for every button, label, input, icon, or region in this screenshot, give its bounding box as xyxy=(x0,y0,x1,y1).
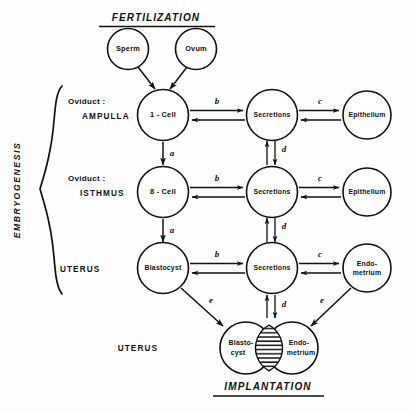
embryogenesis-brace-group: EMBRYOGENESIS xyxy=(12,86,62,294)
row-ampulla-label-line2: AMPULLA xyxy=(82,112,130,121)
implantation-title: IMPLANTATION xyxy=(224,381,311,392)
arrow-label-isthmus-b: b xyxy=(215,173,220,183)
node-isthmus-secretions-label: Secretions xyxy=(253,188,290,195)
node-uterus-endometrium-label-line2: metrium xyxy=(353,269,382,276)
implantation-endometrium-label-line2: metrium xyxy=(287,349,316,356)
sperm-label: Sperm xyxy=(116,44,140,53)
implantation-blastocyst-label-line1: Blasto- xyxy=(229,339,254,346)
arrow-blastocyst-to-implantation-e xyxy=(181,288,223,326)
implantation-blastocyst-label-line2: cyst xyxy=(231,349,246,357)
arrow-label-implantation-d: d xyxy=(282,299,287,309)
arrow-label-ampulla-c: c xyxy=(318,96,322,106)
gamete-ovum: Ovum xyxy=(176,29,217,70)
arrow-label-secretions-d-2: d xyxy=(282,221,287,231)
ovum-label: Ovum xyxy=(185,44,207,53)
embryogenesis-label: EMBRYOGENESIS xyxy=(12,142,22,239)
node-ampulla-secretions-label: Secretions xyxy=(253,111,290,118)
node-uterus-secretions-label: Secretions xyxy=(253,264,290,271)
implantation-heading: IMPLANTATION xyxy=(213,381,324,396)
arrow-label-ampulla-b: b xyxy=(215,96,220,106)
row-ampulla-label-line1: Oviduct : xyxy=(68,97,105,106)
diagram-root: FERTILIZATION Sperm Ovum EMBRYOGENESIS O… xyxy=(0,0,409,413)
gamete-sperm: Sperm xyxy=(108,29,149,70)
embryogenesis-diagram: FERTILIZATION Sperm Ovum EMBRYOGENESIS O… xyxy=(0,0,409,413)
arrow-label-uterus-c: c xyxy=(318,249,322,259)
implantation-site: UTERUS Blasto- cyst Endo- metrium xyxy=(118,322,318,374)
row-ampulla: Oviduct : AMPULLA 1 - Cell Secretions Ep… xyxy=(68,90,391,141)
arrow-label-stage-a-2: a xyxy=(170,225,175,235)
arrow-label-stage-a-1: a xyxy=(170,148,175,158)
node-uterus-endometrium-label-line1: Endo- xyxy=(357,260,378,267)
arrow-endometrium-to-implantation-e xyxy=(311,288,351,326)
row-uterus-label: UTERUS xyxy=(60,265,100,274)
arrow-sperm-to-zygote xyxy=(138,67,155,89)
node-ampulla-embryo-label: 1 - Cell xyxy=(150,110,176,119)
row-isthmus-label-line2: ISTHMUS xyxy=(80,189,125,198)
row-isthmus-label-line1: Oviduct : xyxy=(68,174,105,183)
node-ampulla-epithelium-label: Epithelium xyxy=(348,111,385,119)
node-uterus-embryo-label: Blastocyst xyxy=(145,264,182,272)
arrow-label-secretions-d-1: d xyxy=(282,144,287,154)
arrow-label-e-left: e xyxy=(209,295,213,305)
arrow-label-e-right: e xyxy=(320,295,324,305)
fertilization-heading: FERTILIZATION xyxy=(99,12,215,27)
arrow-label-uterus-b: b xyxy=(215,249,220,259)
node-isthmus-embryo-label: 8 - Cell xyxy=(150,187,176,196)
node-isthmus-epithelium-label: Epithelium xyxy=(348,188,385,196)
fertilization-title: FERTILIZATION xyxy=(112,12,200,23)
arrow-label-isthmus-c: c xyxy=(318,173,322,183)
implantation-row-label: UTERUS xyxy=(118,344,158,353)
implantation-endometrium-label-line1: Endo- xyxy=(289,339,310,346)
embryogenesis-brace xyxy=(40,86,62,294)
row-isthmus: Oviduct : ISTHMUS 8 - Cell Secretions Ep… xyxy=(68,167,391,218)
row-uterus: UTERUS Blastocyst Secretions Endo- metri… xyxy=(60,243,391,294)
arrow-ovum-to-zygote xyxy=(170,67,187,89)
